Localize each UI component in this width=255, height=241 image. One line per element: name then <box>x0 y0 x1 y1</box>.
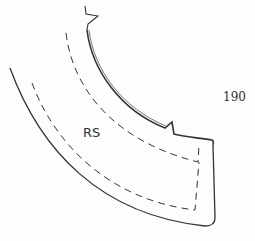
pattern-piece-drawing <box>0 0 255 241</box>
seam-line-outer <box>32 83 199 210</box>
break-mark <box>85 6 98 30</box>
figure-number: 190 <box>223 90 246 104</box>
outer-edge-line <box>10 68 215 226</box>
pattern-diagram: RS 190 <box>0 0 255 241</box>
seam-line-inner <box>66 33 199 162</box>
piece-label: RS <box>83 125 100 140</box>
inner-edge-line <box>87 30 213 145</box>
inner-edge-line-2 <box>89 30 166 126</box>
